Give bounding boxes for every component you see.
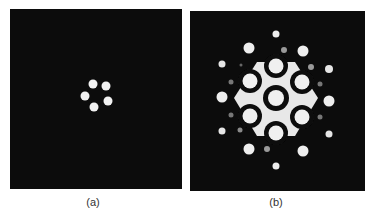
diffraction-spot xyxy=(308,64,314,70)
diffraction-spot xyxy=(318,115,323,120)
panel-b-diffraction-image xyxy=(190,11,365,191)
diffraction-spot xyxy=(229,80,234,85)
panel-a-diffraction-image xyxy=(10,9,182,189)
diffraction-spot xyxy=(219,128,226,135)
ringed-spot xyxy=(295,110,310,125)
panel-a-label: (a) xyxy=(73,196,113,208)
diffraction-spot xyxy=(219,61,226,68)
diffraction-spot xyxy=(326,131,333,138)
diffraction-spot xyxy=(244,144,255,155)
panel-a-pattern xyxy=(10,9,182,189)
diffraction-spot xyxy=(273,31,280,38)
diffraction-spot xyxy=(298,146,309,157)
diffraction-spot xyxy=(217,92,228,103)
diffraction-spot xyxy=(81,92,90,101)
diffraction-spot xyxy=(273,163,280,170)
diffraction-spot xyxy=(102,82,111,91)
diffraction-spot xyxy=(298,46,309,57)
diffraction-spot xyxy=(240,64,243,67)
diffraction-spot xyxy=(281,47,287,53)
ringed-spot xyxy=(295,75,310,90)
diffraction-spot xyxy=(89,80,98,89)
ringed-spot xyxy=(269,126,284,141)
ringed-spot xyxy=(269,59,284,74)
panel-b-pattern xyxy=(190,11,365,191)
diffraction-spot xyxy=(324,96,335,107)
diffraction-spot xyxy=(318,82,323,87)
ringed-spot xyxy=(243,109,258,124)
diffraction-spot xyxy=(244,43,255,54)
diffraction-spot xyxy=(104,97,113,106)
diffraction-spot xyxy=(264,146,270,152)
diffraction-spot xyxy=(325,65,333,73)
diffraction-spot xyxy=(229,113,234,118)
diffraction-spot xyxy=(238,128,243,133)
diffraction-spot xyxy=(90,103,99,112)
ringed-spot xyxy=(243,74,258,89)
ringed-spot xyxy=(268,90,284,106)
panel-b-label: (b) xyxy=(256,196,296,208)
